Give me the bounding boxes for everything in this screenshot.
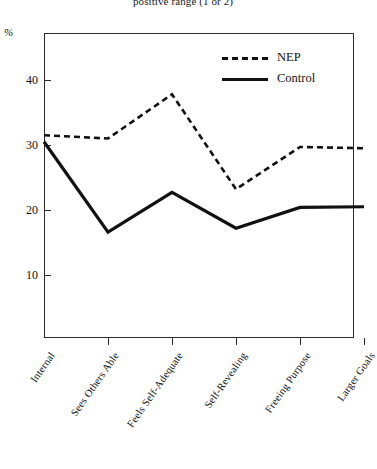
y-tick-mark bbox=[44, 210, 51, 211]
y-tick-label: 20 bbox=[0, 203, 38, 218]
y-tick-label: 40 bbox=[0, 73, 38, 88]
y-tick-label: 30 bbox=[0, 138, 38, 153]
legend-label-nep: NEP bbox=[268, 50, 301, 65]
x-tick-mark bbox=[364, 338, 365, 345]
legend-item-control: Control bbox=[222, 68, 342, 89]
x-tick-label: Self-Revealing bbox=[202, 350, 249, 410]
x-tick-label: Larger Goals bbox=[335, 350, 377, 403]
legend-item-nep: NEP bbox=[222, 47, 342, 68]
x-tick-mark bbox=[300, 338, 301, 345]
x-tick-label: Feels Self-Adequate bbox=[125, 350, 185, 429]
chart-title: positive range (1 or 2) bbox=[0, 0, 366, 7]
y-tick-label: 10 bbox=[0, 268, 38, 283]
x-tick-mark bbox=[108, 338, 109, 345]
legend-label-control: Control bbox=[268, 71, 315, 86]
y-tick-mark bbox=[44, 145, 51, 146]
y-tick-mark bbox=[44, 275, 51, 276]
x-tick-label: Sees Others Able bbox=[69, 350, 121, 418]
dashed-line-icon bbox=[222, 53, 268, 63]
x-tick-label: Freeing Purpose bbox=[263, 350, 313, 415]
x-tick-mark bbox=[236, 338, 237, 345]
y-axis bbox=[0, 0, 44, 469]
y-tick-mark bbox=[44, 80, 51, 81]
solid-line-icon bbox=[222, 74, 268, 84]
x-tick-mark bbox=[172, 338, 173, 345]
chart-legend: NEP Control bbox=[222, 47, 342, 89]
